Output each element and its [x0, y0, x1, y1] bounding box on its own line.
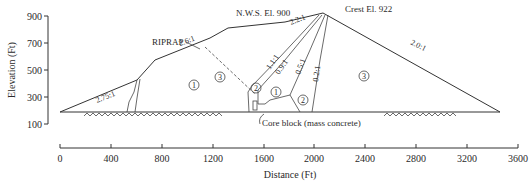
- x-tick-3200: 3200: [457, 153, 477, 164]
- x-tick-400: 400: [104, 153, 119, 164]
- y-tick-100: 100: [27, 119, 42, 130]
- slope-core-3: 0.5:1: [293, 57, 307, 75]
- zone-marker-2-lower: 2: [298, 95, 308, 105]
- x-axis-label: Distance (Ft): [264, 169, 317, 181]
- zone-marker-1-upstream: 1: [189, 80, 199, 90]
- y-tick-900: 900: [27, 11, 42, 22]
- svg-text:3: 3: [218, 73, 222, 82]
- y-axis: 900 700 500 300 100 Elevation (Ft): [6, 11, 48, 130]
- y-tick-700: 700: [27, 38, 42, 49]
- svg-text:1: 1: [274, 88, 278, 97]
- slope-core-4: 0.2:1: [311, 65, 322, 82]
- riprap-label: RIPRAP: [152, 37, 184, 47]
- svg-text:2: 2: [301, 96, 305, 105]
- y-tick-500: 500: [27, 65, 42, 76]
- zone-marker-3-upstream: 3: [215, 72, 225, 82]
- zone-marker-1-core: 1: [271, 87, 281, 97]
- slope-upstream-lower: 2.75:1: [94, 89, 116, 105]
- x-tick-800: 800: [155, 153, 170, 164]
- x-tick-2400: 2400: [355, 153, 375, 164]
- x-tick-2800: 2800: [406, 153, 426, 164]
- zone-marker-3-downstream: 3: [359, 71, 369, 81]
- slope-upstream-upper: 2.2:1: [288, 12, 306, 26]
- y-axis-label: Elevation (Ft): [6, 42, 18, 98]
- x-tick-2000: 2000: [304, 153, 324, 164]
- slope-downstream: 2.0:1: [409, 38, 428, 53]
- slope-labels: 2.75:1 2.6:1 2.2:1 2.0:1 1.1:1 0.9:1 0.5…: [94, 12, 427, 104]
- foundation-ground: [60, 112, 500, 116]
- x-tick-0: 0: [58, 153, 63, 164]
- nws-elevation-label: N.W.S. El. 900: [236, 8, 291, 18]
- svg-text:2: 2: [254, 84, 258, 93]
- x-tick-1200: 1200: [203, 153, 223, 164]
- y-tick-300: 300: [27, 92, 42, 103]
- svg-text:3: 3: [362, 72, 366, 81]
- core-block: [253, 101, 257, 110]
- svg-text:1: 1: [192, 81, 196, 90]
- dam-cross-section-figure: 900 700 500 300 100 Elevation (Ft) 0 400…: [0, 0, 532, 185]
- core-block-label: Core block (mass concrete): [262, 118, 361, 128]
- crest-elevation-label: Crest El. 922: [345, 4, 392, 14]
- x-axis: 0 400 800 1200 1600 2000 2400 2800 3200 …: [58, 144, 529, 181]
- x-tick-1600: 1600: [254, 153, 274, 164]
- x-tick-3600: 3600: [508, 153, 528, 164]
